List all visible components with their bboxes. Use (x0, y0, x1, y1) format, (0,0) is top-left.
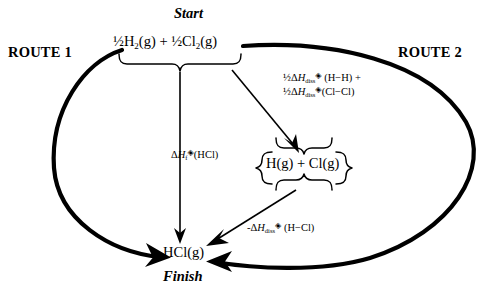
product-species-label: HCl(g) (163, 245, 204, 260)
dissociation-hh-term: ½ΔHdiss◈ (H−H) + (283, 71, 361, 85)
route-1-label: ROUTE 1 (8, 45, 72, 60)
route2-arrowhead (206, 251, 232, 272)
dissociation-clcl-term: ½ΔHdiss◈(Cl−Cl) (283, 85, 361, 99)
reactants-formula: ½H2(g) + ½Cl2(g) (113, 33, 217, 49)
intermediate-species-label: H(g) + Cl(g) (266, 156, 339, 171)
route-2-label: ROUTE 2 (398, 45, 462, 60)
dissociation-enthalpy-sum-label: ½ΔHdiss◈ (H−H) + ½ΔHdiss◈(Cl−Cl) (283, 71, 361, 99)
hcl-dissociation-arrowhead (206, 229, 229, 246)
intermediate-bottom-brace (276, 174, 332, 190)
reactants-species-label: ½H2(g) + ½Cl2(g) (113, 34, 217, 49)
reactants-brace (119, 54, 241, 71)
hess-law-cycle-diagram: ROUTE 1 ROUTE 2 Start Finish ½H2(g) + ½C… (0, 0, 490, 296)
hcl-dissociation-enthalpy-label: -ΔHdiss◈ (H−Cl) (247, 222, 314, 233)
route1-arc-path (54, 50, 160, 257)
intermediate-top-brace (276, 138, 332, 154)
formation-enthalpy-label: ΔHf◈(HCl) (171, 149, 218, 160)
finish-label: Finish (163, 269, 203, 284)
start-label: Start (174, 6, 203, 21)
